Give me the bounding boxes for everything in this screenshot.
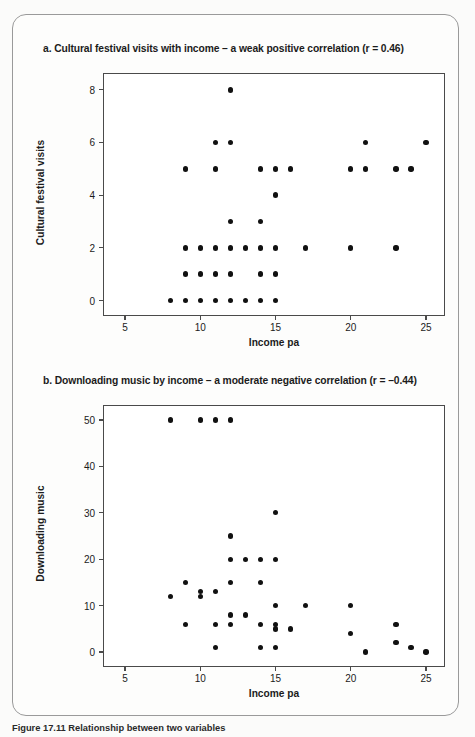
plot-a-y-tick-label: 2 bbox=[89, 242, 95, 253]
plot-a-data-point bbox=[183, 166, 188, 171]
plot-a-y-tick bbox=[99, 89, 104, 90]
plot-b-x-tick-label: 5 bbox=[122, 673, 128, 684]
plot-a-y-tick-label: 8 bbox=[89, 84, 95, 95]
plot-a-data-point bbox=[213, 140, 218, 145]
plot-b-data-point bbox=[213, 622, 218, 627]
plot-b-x-axis-title: Income pa bbox=[104, 688, 444, 699]
plot-b-data-point bbox=[183, 580, 188, 585]
figure-page: a. Cultural festival visits with income … bbox=[0, 0, 475, 737]
plot-a-data-point bbox=[348, 245, 353, 250]
plot-b-data-point bbox=[258, 580, 263, 585]
plot-a-data-point bbox=[258, 166, 263, 171]
plot-a-data-point bbox=[213, 298, 218, 303]
plot-a-data-point bbox=[258, 219, 263, 224]
plot-b-x-tick-label: 10 bbox=[195, 673, 206, 684]
plot-a-x-tick-label: 20 bbox=[345, 322, 356, 333]
plot-b-x-tick bbox=[200, 666, 201, 671]
plot-a-data-point bbox=[258, 298, 263, 303]
plot-a-x-tick bbox=[275, 315, 276, 320]
plot-a-y-tick bbox=[99, 247, 104, 248]
plot-b-y-tick-label: 0 bbox=[89, 647, 95, 658]
plot-a-x-tick-label: 25 bbox=[420, 322, 431, 333]
plot-a-data-point bbox=[273, 271, 278, 276]
plot-b-x-tick bbox=[425, 666, 426, 671]
plot-a-data-point bbox=[393, 166, 398, 171]
plot-a-data-point bbox=[183, 271, 188, 276]
scatter-plot-b: Downloading music Income pa 010203040505… bbox=[103, 405, 445, 667]
plot-a-data-point bbox=[198, 271, 203, 276]
plot-b-y-tick bbox=[99, 419, 104, 420]
plot-a-data-point bbox=[348, 166, 353, 171]
plot-a-data-point bbox=[393, 245, 398, 250]
plot-b-y-axis-title: Downloading music bbox=[35, 454, 46, 614]
plot-a-data-point bbox=[423, 140, 428, 145]
plot-b-data-point bbox=[168, 594, 173, 599]
figure-border: a. Cultural festival visits with income … bbox=[12, 14, 459, 716]
plot-a-data-point bbox=[258, 271, 263, 276]
plot-b-data-point bbox=[408, 645, 413, 650]
plot-a-data-point bbox=[273, 166, 278, 171]
plot-a-x-axis-title: Income pa bbox=[104, 337, 444, 348]
plot-a-data-point bbox=[228, 271, 233, 276]
plot-b-data-point bbox=[348, 603, 353, 608]
plot-a-data-point bbox=[243, 298, 248, 303]
plot-b-data-point bbox=[258, 557, 263, 562]
plot-b-data-point bbox=[423, 649, 428, 654]
plot-b-x-tick bbox=[275, 666, 276, 671]
plot-b-y-tick-label: 50 bbox=[84, 414, 95, 425]
plot-b-x-tick bbox=[350, 666, 351, 671]
plot-a-data-point bbox=[363, 166, 368, 171]
plot-a-y-tick-label: 0 bbox=[89, 295, 95, 306]
plot-b-data-point bbox=[228, 622, 233, 627]
plot-a-data-point bbox=[213, 245, 218, 250]
plot-a-data-point bbox=[228, 140, 233, 145]
plot-b-data-point bbox=[228, 580, 233, 585]
plot-a-data-point bbox=[408, 166, 413, 171]
panel-a-title: a. Cultural festival visits with income … bbox=[43, 43, 404, 54]
plot-b-data-point bbox=[228, 417, 233, 422]
plot-b-data-point bbox=[198, 417, 203, 422]
plot-a-data-point bbox=[228, 298, 233, 303]
plot-a-data-point bbox=[228, 219, 233, 224]
plot-b-data-point bbox=[273, 626, 278, 631]
plot-a-data-point bbox=[288, 166, 293, 171]
plot-b-data-point bbox=[273, 645, 278, 650]
plot-a-data-point bbox=[273, 245, 278, 250]
figure-caption: Figure 17.11 Relationship between two va… bbox=[12, 723, 312, 733]
plot-b-data-point bbox=[213, 589, 218, 594]
plot-a-data-point bbox=[213, 166, 218, 171]
plot-b-y-tick-label: 40 bbox=[84, 461, 95, 472]
plot-a-data-point bbox=[198, 298, 203, 303]
plot-b-y-tick bbox=[99, 651, 104, 652]
plot-b-data-point bbox=[363, 649, 368, 654]
plot-b-data-point bbox=[243, 557, 248, 562]
plot-a-y-tick bbox=[99, 142, 104, 143]
plot-a-y-tick bbox=[99, 300, 104, 301]
plot-a-y-tick-label: 6 bbox=[89, 137, 95, 148]
plot-a-x-tick-label: 15 bbox=[270, 322, 281, 333]
plot-a-data-point bbox=[168, 298, 173, 303]
plot-b-data-point bbox=[348, 631, 353, 636]
panel-b-title: b. Downloading music by income – a moder… bbox=[43, 375, 417, 386]
plot-b-data-point bbox=[288, 626, 293, 631]
plot-a-x-tick bbox=[124, 315, 125, 320]
plot-b-data-point bbox=[213, 645, 218, 650]
plot-a-data-point bbox=[213, 271, 218, 276]
plot-b-data-point bbox=[273, 603, 278, 608]
plot-b-data-point bbox=[213, 417, 218, 422]
plot-a-x-tick bbox=[425, 315, 426, 320]
plot-b-x-tick-label: 20 bbox=[345, 673, 356, 684]
plot-b-data-point bbox=[258, 645, 263, 650]
plot-a-data-point bbox=[183, 298, 188, 303]
plot-a-x-tick bbox=[200, 315, 201, 320]
plot-b-y-tick bbox=[99, 559, 104, 560]
plot-a-data-point bbox=[198, 245, 203, 250]
plot-b-data-point bbox=[393, 622, 398, 627]
plot-b-data-point bbox=[228, 557, 233, 562]
plot-b-data-point bbox=[393, 640, 398, 645]
plot-b-data-point bbox=[228, 612, 233, 617]
scatter-plot-a: Cultural festival visits Income pa 02468… bbox=[103, 73, 445, 316]
plot-b-data-point bbox=[243, 612, 248, 617]
plot-b-y-tick bbox=[99, 512, 104, 513]
plot-b-y-tick bbox=[99, 605, 104, 606]
